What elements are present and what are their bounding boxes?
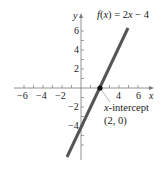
- y-tick-6: 6: [74, 26, 79, 36]
- y-tick-neg2: −2: [68, 102, 79, 112]
- intercept-title: x-intercept: [104, 103, 149, 114]
- x-intercept-point: [97, 85, 102, 90]
- y-tick-neg4: −4: [68, 121, 79, 131]
- graph-canvas: [0, 0, 168, 169]
- x-tick-neg4: −4: [36, 91, 47, 101]
- function-label: f(x) = 2x − 4: [97, 10, 149, 21]
- x-tick-4: 4: [116, 91, 121, 101]
- x-axis-label: x: [149, 91, 153, 101]
- y-axis-label: y: [73, 11, 77, 21]
- y-tick-4: 4: [74, 45, 79, 55]
- intercept-point-label: (2, 0): [104, 116, 127, 127]
- x-tick-neg2: −2: [55, 91, 66, 101]
- y-tick-2: 2: [74, 64, 79, 74]
- y-axis-arrow-icon: [79, 13, 83, 18]
- x-tick-neg6: −6: [17, 91, 28, 101]
- x-tick-6: 6: [136, 91, 141, 101]
